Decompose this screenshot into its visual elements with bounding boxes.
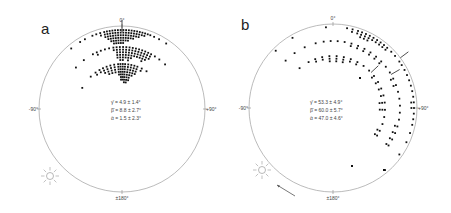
panel-a-data-points [70,29,167,89]
panel-a-stat-alpha: ᾱ = 1.5 ± 2.3° [111,115,141,121]
panel-b-letter: b [241,16,249,33]
panel-b-stat-beta: β̄ = 60.0 ± 5.7° [310,107,343,113]
panel-a-stat-gamma: γ̄ = 4.9 ± 1.4° [111,99,141,105]
sun-icon [253,161,271,179]
panel-b-data-points [275,26,415,171]
panel-a-label-right: +90° [206,106,216,112]
rotation-arrow-icon [277,185,295,196]
panel-a-stat-beta: β̄ = 8.8 ± 2.7° [111,107,141,113]
panel-b-label-top: 0° [331,15,336,21]
panel-b-label-bottom: ±180° [326,195,339,201]
panel-a: a 0° -90° +90° ±180° γ̄ = 4.9 ± 1.4° β̄ … [29,17,217,201]
panel-a-label-bottom: ±180° [115,195,128,201]
panel-a-letter: a [41,20,50,37]
panel-a-label-left: -90° [29,106,38,112]
panel-b-stat-alpha: ᾱ = 47.0 ± 4.6° [310,115,343,121]
panel-b-label-right: +90° [418,105,428,111]
sun-icon [41,167,59,185]
panel-a-label-top: 0° [120,17,125,23]
panel-b-label-left: -90° [239,105,248,111]
figure-canvas: a 0° -90° +90° ±180° γ̄ = 4.9 ± 1.4° β̄ … [0,0,451,213]
panel-b-stat-gamma: γ̄ = 53.3 ± 4.9° [310,99,342,105]
panel-b: b 0° -90° +90° ±180° γ̄ = 53.3 ± 4.9° β̄… [239,15,429,201]
